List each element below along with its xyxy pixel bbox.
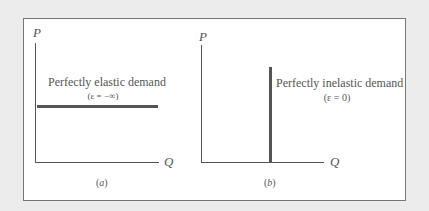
y-axis-b [201, 45, 202, 163]
elastic-demand-label: Perfectly elastic demand [48, 76, 158, 88]
y-axis-label-b: P [199, 30, 207, 43]
panel-label-b: (b) [264, 178, 276, 188]
x-axis-label-b: Q [330, 155, 339, 168]
inelastic-demand-epsilon: (ε = 0) [276, 93, 398, 103]
inelastic-demand-line [269, 67, 272, 163]
panel-label-a: (a) [96, 178, 108, 188]
elastic-demand-line [37, 105, 158, 108]
y-axis-a [35, 43, 36, 163]
y-axis-label-a: P [33, 26, 41, 39]
inelastic-demand-label: Perfectly inelastic demand [276, 77, 398, 89]
x-axis-label-a: Q [164, 155, 173, 168]
x-axis-a [35, 162, 159, 163]
elastic-demand-epsilon: (ε = −∞) [48, 92, 158, 101]
figure-frame [23, 18, 406, 201]
x-axis-b [201, 162, 324, 163]
